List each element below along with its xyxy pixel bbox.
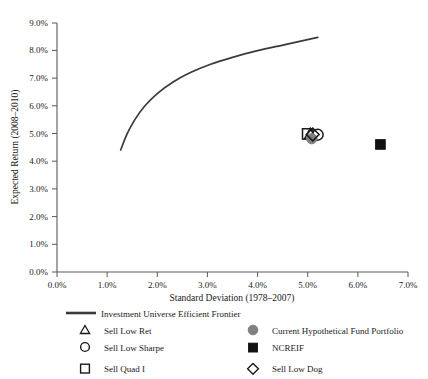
x-tick-label-2: 2.0% [148,280,167,290]
x-tick-label-1: 1.0% [98,280,117,290]
y-tick-label-7: 7.0% [29,73,48,83]
legend-label-sell-quad-i: Sell Quad I [104,364,145,374]
y-tick-label-0: 0.0% [29,267,48,277]
x-tick-label-6: 6.0% [349,280,368,290]
y-tick-label-4: 4.0% [29,156,48,166]
y-tick-label-2: 2.0% [29,212,48,222]
chart-svg: 0.0% 1.0% 2.0% 3.0% 4.0% 5.0% 6.0% 7.0% … [0,0,428,379]
x-tick-label-3: 3.0% [198,280,217,290]
y-tick-label-3: 3.0% [29,184,48,194]
legend-label-ncreif: NCREIF [272,343,304,353]
x-tick-label-7: 7.0% [399,280,418,290]
y-tick-label-5: 5.0% [29,129,48,139]
legend-label-sell-low-dog: Sell Low Dog [272,364,323,374]
legend-label-frontier: Investment Universe Efficient Frontier [101,309,241,319]
legend-label-sell-low-ret: Sell Low Ret [104,326,152,336]
data-point-ncreif [376,140,386,150]
chart-background [0,0,428,379]
y-tick-label-9: 9.0% [29,18,48,28]
efficient-frontier-chart: 0.0% 1.0% 2.0% 3.0% 4.0% 5.0% 6.0% 7.0% … [0,0,428,379]
circle-filled-icon [248,325,258,335]
y-tick-label-1: 1.0% [29,239,48,249]
legend-label-sell-low-sharpe: Sell Low Sharpe [104,343,164,353]
y-tick-label-8: 8.0% [29,45,48,55]
x-axis-title: Standard Deviation (1978–2007) [169,293,294,304]
x-tick-label-4: 4.0% [248,280,267,290]
x-tick-label-0: 0.0% [48,280,67,290]
legend-label-current-hypothetical-fund-portfolio: Current Hypothetical Fund Portfolio [272,326,404,336]
y-tick-label-6: 6.0% [29,101,48,111]
x-tick-label-5: 5.0% [298,280,317,290]
square-filled-icon [249,343,258,352]
y-axis-title: Expected Return (2008–2010) [10,89,21,204]
